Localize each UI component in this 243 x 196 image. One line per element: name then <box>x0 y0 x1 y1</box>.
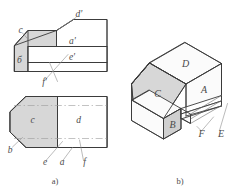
caption-b: b) <box>176 176 183 186</box>
front-view-lower-band <box>28 63 107 72</box>
label-pictorial-b: B <box>169 119 175 130</box>
label-a-prime: a' <box>69 36 77 46</box>
label-b: b <box>8 145 13 155</box>
label-pictorial-a: A <box>200 84 208 95</box>
label-e: e <box>43 157 47 167</box>
pictorial-group-b: D C A B F E b) <box>132 43 228 186</box>
label-a: a <box>60 157 65 167</box>
label-d-prime: d' <box>76 9 84 19</box>
technical-drawing-figure: d' c a' e' f' б <box>0 0 243 196</box>
label-f: f <box>83 157 87 167</box>
front-view-step-band <box>28 47 107 63</box>
drawing-canvas: d' c a' e' f' б <box>0 0 243 196</box>
label-e-prime: e' <box>69 52 76 62</box>
label-pictorial-d: D <box>181 58 190 69</box>
label-d: d <box>76 115 81 125</box>
label-pictorial-e: E <box>217 128 224 139</box>
front-view: d' c a' e' f' б <box>15 9 108 87</box>
orthographic-group-a: d' c a' e' f' б <box>8 9 107 186</box>
label-pictorial-c: C <box>154 88 161 99</box>
leader-pictorial-e <box>220 104 228 131</box>
caption-a: a) <box>52 176 59 186</box>
top-view-face-d <box>58 97 108 148</box>
label-pictorial-f: F <box>197 128 205 139</box>
top-view: c d b e a f <box>8 97 107 168</box>
